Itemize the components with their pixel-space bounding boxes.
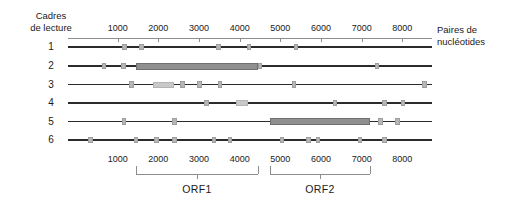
- top-axis-tick: [158, 38, 159, 42]
- stop-codon-mark: [395, 118, 400, 125]
- orf-bar-orf1: [136, 63, 258, 70]
- bottom-axis-tick-label: 4000: [220, 155, 260, 164]
- stop-codon-mark: [172, 137, 177, 144]
- stop-codon-mark: [382, 137, 387, 144]
- bottom-axis-tick-label: 1000: [98, 155, 138, 164]
- stop-codon-mark: [197, 81, 202, 88]
- stop-codon-mark: [204, 100, 209, 107]
- bracket-end-right: [370, 166, 371, 174]
- stop-codon-mark: [129, 81, 134, 88]
- top-axis-tick-label: 2000: [138, 24, 178, 33]
- orf-bar-frame-3: [153, 82, 173, 88]
- bottom-axis-tick-label: 2000: [138, 155, 178, 164]
- top-axis-tick-label: 4000: [220, 24, 260, 33]
- stop-codon-mark: [375, 63, 380, 70]
- bottom-axis-tick-label: 8000: [382, 155, 422, 164]
- reading-frames-figure: Cadres de lecture Paires de nucléotides …: [0, 0, 516, 216]
- stop-codon-mark: [180, 81, 185, 88]
- top-axis-tick: [240, 38, 241, 42]
- stop-codon-mark: [292, 81, 297, 88]
- stop-codon-mark: [247, 44, 252, 51]
- stop-codon-mark: [280, 137, 285, 144]
- top-axis-tick-label: 5000: [260, 24, 300, 33]
- orf-label-orf1: ORF1: [157, 184, 237, 195]
- frame-line-4: [68, 102, 432, 104]
- stop-codon-mark: [333, 100, 338, 107]
- bracket-center-nub: [320, 174, 321, 179]
- bracket-center-nub: [197, 174, 198, 179]
- frame-line-3: [68, 84, 432, 86]
- top-axis-tick-label: 7000: [342, 24, 382, 33]
- stop-codon-mark: [134, 137, 139, 144]
- top-axis-tick: [321, 38, 322, 42]
- top-axis-tick: [280, 38, 281, 42]
- stop-codon-mark: [382, 100, 387, 107]
- top-axis-tick-label: 6000: [301, 24, 341, 33]
- stop-codon-mark: [121, 63, 126, 70]
- stop-codon-mark: [218, 81, 223, 88]
- top-axis-tick: [199, 38, 200, 42]
- stop-codon-mark: [258, 63, 263, 70]
- stop-codon-mark: [422, 81, 427, 88]
- frame-line-6: [68, 139, 432, 141]
- bracket-end-right: [258, 166, 259, 174]
- stop-codon-mark: [358, 137, 363, 144]
- stop-codon-mark: [122, 118, 127, 125]
- top-axis-tick: [118, 38, 119, 42]
- stop-codon-mark: [102, 63, 107, 70]
- stop-codon-mark: [122, 44, 127, 51]
- bottom-axis-tick-label: 7000: [342, 155, 382, 164]
- plot-area: 1000200030004000500060007000800010002000…: [0, 0, 516, 216]
- stop-codon-mark: [401, 100, 406, 107]
- stop-codon-mark: [172, 118, 177, 125]
- stop-codon-mark: [306, 137, 311, 144]
- top-axis-tick-label: 1000: [98, 24, 138, 33]
- stop-codon-mark: [88, 137, 93, 144]
- top-axis-tick-label: 8000: [382, 24, 422, 33]
- stop-codon-mark: [212, 137, 217, 144]
- stop-codon-mark: [378, 118, 383, 125]
- stop-codon-mark: [228, 137, 233, 144]
- stop-codon-mark: [216, 44, 221, 51]
- orf-bar-frame-4: [236, 100, 248, 106]
- stop-codon-mark: [294, 44, 299, 51]
- top-axis-tick: [362, 38, 363, 42]
- bottom-axis-tick-label: 5000: [260, 155, 300, 164]
- bottom-axis-tick-label: 6000: [301, 155, 341, 164]
- orf-label-orf2: ORF2: [280, 184, 360, 195]
- stop-codon-mark: [139, 44, 144, 51]
- top-axis-tick: [402, 38, 403, 42]
- top-axis-tick-label: 3000: [179, 24, 219, 33]
- stop-codon-mark: [154, 137, 159, 144]
- stop-codon-mark: [316, 137, 321, 144]
- bracket-end-left: [270, 166, 271, 174]
- bracket-end-left: [136, 166, 137, 174]
- orf-bar-orf2: [270, 118, 370, 125]
- top-axis-line: [68, 38, 432, 39]
- bottom-axis-tick-label: 3000: [179, 155, 219, 164]
